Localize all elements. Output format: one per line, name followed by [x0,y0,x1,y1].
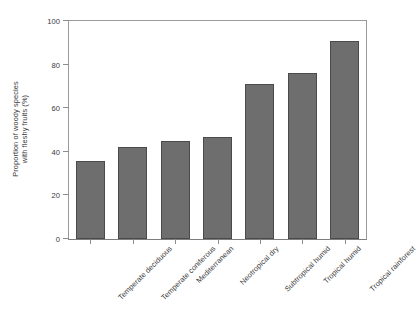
y-tick-label: 80 [52,60,60,69]
y-axis-title-line-1: Proportion of woody species [11,81,20,177]
x-axis-label: Subtropical humid [283,244,332,293]
y-tick-label: 0 [56,235,60,244]
y-tick-label: 100 [47,17,60,26]
plot-area: 020406080100 [68,20,367,240]
bar [76,161,105,239]
y-axis-title-line-2: with fleshy fruits (%) [20,81,29,177]
bar [288,73,317,239]
y-tick-label: 20 [52,191,60,200]
y-tick-label: 40 [52,147,60,156]
y-axis-title-text: Proportion of woody species with fleshy … [11,81,29,177]
y-axis-title: Proportion of woody species with fleshy … [8,20,32,238]
bar [245,84,274,239]
x-axis-label: Neotropical dry [237,244,280,287]
y-tick-label: 60 [52,104,60,113]
x-axis-label: Tropical rainforest [368,244,417,293]
bar [330,41,359,239]
x-axis-labels: Temperate deciduousTemperate coniferousM… [0,244,385,336]
bar-series [69,21,366,239]
bar [161,141,190,239]
bar [118,147,147,239]
bar [203,137,232,239]
